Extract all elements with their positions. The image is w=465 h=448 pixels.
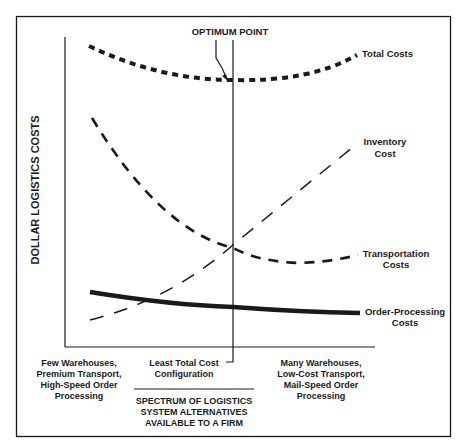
logistics-cost-diagram: DOLLAR LOGISTICS COSTS OPTIMUM POINT Tot…	[0, 0, 465, 448]
x-label-left-line3: High-Speed Order	[40, 380, 118, 390]
order-processing-label-line1: Order-Processing	[365, 306, 445, 317]
total-costs-curve	[89, 46, 357, 80]
x-axis-title-line2: SYSTEM ALTERNATIVES	[141, 407, 248, 417]
x-label-left-line2: Premium Transport,	[36, 369, 121, 379]
x-label-right-line3: Mail-Speed Order	[284, 380, 359, 390]
x-label-center-line2: Configuration	[155, 369, 214, 379]
x-label-left-line1: Few Warehouses,	[41, 358, 117, 368]
x-axis-title-line1: SPECTRUM OF LOGISTICS	[136, 396, 253, 406]
x-label-center-line1: Least Total Cost	[149, 358, 218, 368]
x-label-right-line2: Low-Cost Transport,	[277, 369, 365, 379]
optimum-line	[226, 40, 233, 362]
total-costs-label: Total Costs	[362, 48, 413, 59]
transportation-costs-label-line1: Transportation	[363, 248, 430, 259]
x-axis-title-line3: AVAILABLE TO A FIRM	[145, 418, 243, 428]
order-processing-costs-curve	[90, 292, 360, 313]
inventory-cost-curve	[90, 143, 358, 320]
x-label-left-line4: Processing	[55, 391, 104, 401]
inventory-cost-label-line2: Cost	[374, 148, 396, 159]
optimum-pointer	[216, 40, 226, 77]
x-label-right-line1: Many Warehouses,	[280, 358, 361, 368]
order-processing-label-line2: Costs	[392, 317, 418, 328]
x-label-right-line4: Processing	[297, 391, 346, 401]
transportation-costs-label-line2: Costs	[383, 259, 409, 270]
inventory-cost-label-line1: Inventory	[364, 136, 407, 147]
optimum-point-label: OPTIMUM POINT	[192, 26, 269, 37]
transportation-costs-curve	[92, 118, 358, 263]
y-axis-label: DOLLAR LOGISTICS COSTS	[29, 115, 41, 264]
